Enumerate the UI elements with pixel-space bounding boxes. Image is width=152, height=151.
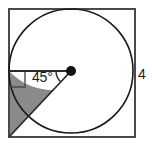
geometry-figure: 45° 4 [0,0,152,151]
angle-label: 45° [32,70,53,84]
side-length-label: 4 [138,67,146,81]
geometry-canvas [0,0,152,151]
angle-arc [56,71,60,82]
center-point-dot [66,66,76,76]
